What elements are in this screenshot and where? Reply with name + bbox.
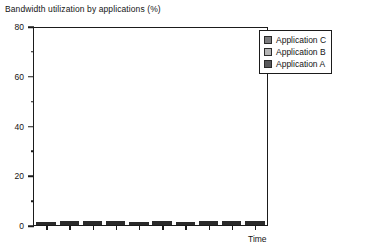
legend-item-application-a[interactable]: Application A [264,58,326,70]
x-tick [93,226,95,230]
x-tick [116,226,118,230]
bars-layer [35,29,267,225]
bar-segment-application-a [83,223,102,225]
bar-segment-application-a [60,223,79,225]
y-tick-label: 80 [15,22,24,32]
bar-segment-application-a [199,223,218,225]
bar-segment-application-a [222,223,241,225]
bar-segment-application-a [152,223,171,225]
chart-legend: Application CApplication BApplication A [259,30,332,74]
x-tick [69,226,71,230]
legend-label: Application C [276,36,326,45]
legend-item-application-c[interactable]: Application C [264,34,326,46]
x-tick [232,226,234,230]
chart-title: Bandwidth utilization by applications (%… [5,4,161,14]
legend-label: Application A [276,60,325,69]
legend-label: Application B [276,48,326,57]
x-tick [209,226,211,230]
legend-item-application-b[interactable]: Application B [264,46,326,58]
bar-7[interactable] [176,222,195,225]
y-tick-label: 60 [15,72,24,82]
bar-segment-application-a [36,223,55,225]
bar-5[interactable] [129,222,148,225]
bar-8[interactable] [199,221,218,225]
bar-3[interactable] [83,221,102,225]
bar-2[interactable] [60,221,79,225]
y-tick-label: 20 [15,171,24,181]
bar-6[interactable] [152,221,171,225]
x-tick [185,226,187,230]
y-tick-label: 40 [15,122,24,132]
x-tick [46,226,48,230]
bar-10[interactable] [245,221,264,225]
x-tick [139,226,141,230]
bar-4[interactable] [106,221,125,225]
legend-swatch-icon [264,60,272,68]
bar-1[interactable] [36,222,55,225]
bar-9[interactable] [222,221,241,225]
bar-segment-application-a [245,223,264,225]
x-tick [162,226,164,230]
x-axis-ticks [35,226,267,232]
y-tick-label: 0 [19,221,24,231]
bar-segment-application-a [176,223,195,225]
x-tick [255,226,257,230]
bar-segment-application-a [106,223,125,225]
x-axis-label: Time [248,234,267,244]
legend-swatch-icon [264,48,272,56]
legend-swatch-icon [264,36,272,44]
bar-segment-application-a [129,223,148,225]
